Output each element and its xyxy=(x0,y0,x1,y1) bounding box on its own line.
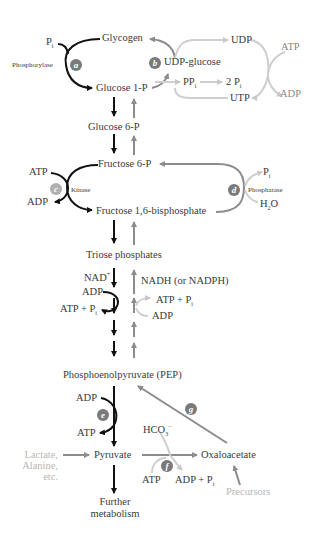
lactate-alanine-label: Lactate, Alanine, etc. xyxy=(14,449,58,482)
atp-pi-glycolysis-label: ATP + Pi xyxy=(60,304,97,316)
atp-pyruvate-kinase-label: ATP xyxy=(77,428,96,439)
adp-pyruvate-kinase-label: ADP xyxy=(76,393,97,404)
adp-glycolysis-label: ADP xyxy=(82,287,103,298)
hco3-label: HCO3− xyxy=(143,423,172,437)
pi-phosphatase-label: Pi xyxy=(263,167,271,179)
triose-phosphates-label: Triose phosphates xyxy=(86,250,162,261)
udp-utp-cycle xyxy=(155,40,285,98)
adp-udp-label: ADP xyxy=(280,89,301,100)
glucose-6p-label: Glucose 6-P xyxy=(88,122,140,133)
glucose-1p-label: Glucose 1-P xyxy=(96,83,148,94)
two-pi-label: 2 Pi xyxy=(226,77,241,89)
adp-pi-pc-label: ADP + Pi xyxy=(175,475,214,487)
fructose-6p-label: Fructose 6-P xyxy=(98,159,151,170)
udp-glucose-label: UDP-glucose xyxy=(164,57,221,68)
glycogen-label: Glycogen xyxy=(102,33,143,44)
badge-b: b xyxy=(149,57,161,69)
badge-d: d xyxy=(228,184,240,196)
further-metabolism-label: Further metabolism xyxy=(86,497,144,519)
kinase-enzyme-label: Kinase xyxy=(71,187,90,194)
atp-pc-label: ATP xyxy=(142,475,161,486)
fructose-16bp-label: Fructose 1,6-bisphosphate xyxy=(96,206,206,217)
h2o-label: H2O xyxy=(260,199,278,211)
ppi-label: PPi xyxy=(183,77,196,89)
badge-f: f xyxy=(161,460,173,472)
atp-pi-gluconeo-label: ATP + Pi xyxy=(156,295,193,307)
nadh-label: NADH (or NADPH) xyxy=(141,276,229,287)
pep-label: Phosphoenolpyruvate (PEP) xyxy=(63,370,182,381)
phosphatase-enzyme-label: Phosphatase xyxy=(248,187,283,194)
phosphorylase-enzyme-label: Phosphorylase xyxy=(12,62,53,69)
adp-gluconeo-label: ADP xyxy=(152,311,173,322)
oxaloacetate-label: Oxaloacetate xyxy=(201,450,256,461)
utp-label: UTP xyxy=(230,93,250,104)
precursors-label: Precursors xyxy=(226,487,270,498)
adp-kinase-label: ADP xyxy=(27,197,48,208)
badge-g: g xyxy=(185,403,197,415)
badge-e: e xyxy=(97,409,109,421)
atp-kinase-label: ATP xyxy=(29,167,48,178)
atp-udp-label: ATP xyxy=(281,42,300,53)
nad-label: NAD+ xyxy=(84,271,110,283)
badge-c: c xyxy=(50,183,62,195)
pi-phosphorylase-label: Pi xyxy=(46,37,54,49)
pyruvate-label: Pyruvate xyxy=(94,450,131,461)
udp-label: UDP xyxy=(231,35,252,46)
badge-a: a xyxy=(70,59,82,71)
